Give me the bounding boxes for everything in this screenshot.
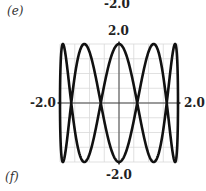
plot-area [0, 0, 206, 191]
axes [57, 41, 181, 165]
